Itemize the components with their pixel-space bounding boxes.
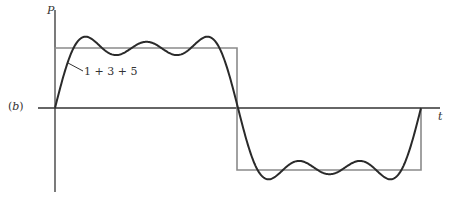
annotation-leader	[68, 63, 83, 71]
curve-annotation: 1 + 3 + 5	[84, 65, 137, 78]
panel-label: (b)	[8, 100, 24, 113]
y-axis-label: P	[47, 4, 54, 17]
x-axis-label: t	[438, 110, 442, 123]
fourier-diagram	[0, 0, 452, 206]
